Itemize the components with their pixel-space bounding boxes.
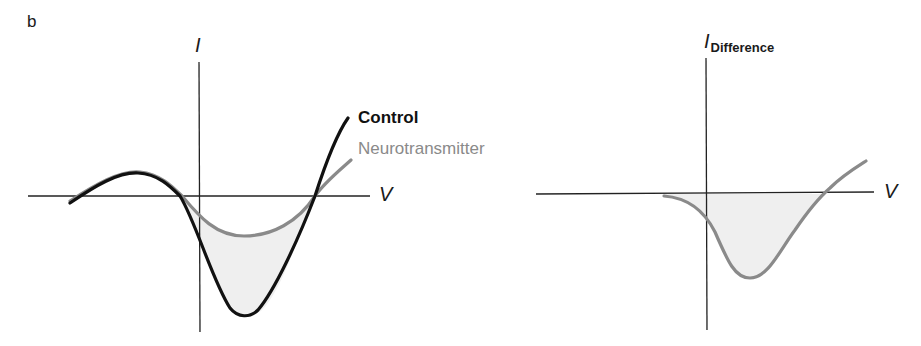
- y-axis-label-right-subscript: Difference: [711, 40, 775, 55]
- panel-label: b: [27, 12, 36, 32]
- left-plot: [28, 62, 370, 332]
- legend-neurotransmitter: Neurotransmitter: [358, 139, 485, 159]
- right-plot: [536, 58, 874, 330]
- control-curve: [70, 118, 348, 316]
- x-axis-label-left: V: [379, 183, 392, 206]
- neurotransmitter-curve: [70, 160, 351, 236]
- y-axis-label-left: I: [195, 34, 201, 57]
- i-axis-left: [199, 62, 200, 332]
- y-axis-label-right: IDifference: [704, 30, 773, 53]
- i-axis-right: [706, 58, 707, 330]
- legend-control: Control: [358, 108, 418, 128]
- y-axis-label-right-main: I: [704, 30, 710, 52]
- difference-shading-right: [664, 194, 823, 278]
- figure-canvas: [0, 0, 921, 346]
- x-axis-label-right: V: [884, 180, 897, 203]
